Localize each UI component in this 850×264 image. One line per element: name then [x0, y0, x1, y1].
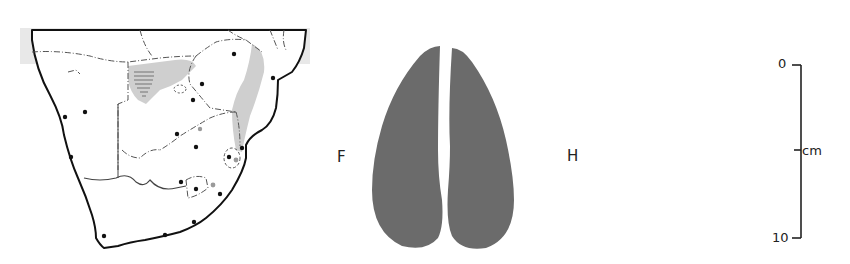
scale-bar-graphic	[750, 0, 850, 264]
southern-africa-map	[0, 0, 320, 264]
front-print-right-toe	[448, 48, 515, 249]
hoofprints-panel: F H	[330, 0, 750, 264]
distribution-map	[0, 0, 320, 264]
hoofprint-drawings	[330, 0, 750, 264]
scale-bar: 0 cm 10	[750, 0, 850, 264]
hind-print-label: H	[567, 147, 578, 165]
front-print-left-toe	[372, 46, 443, 248]
